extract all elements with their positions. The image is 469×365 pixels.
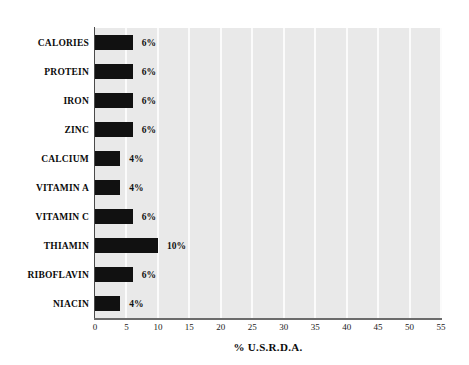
category-label: VITAMIN C <box>0 212 89 222</box>
x-tick-label: 5 <box>111 321 141 333</box>
gridline <box>409 28 411 318</box>
bar-value-label: 6% <box>142 96 156 106</box>
x-tick-label: 30 <box>269 321 299 333</box>
bar-value-label: 4% <box>129 183 143 193</box>
bar <box>95 93 133 108</box>
category-label: VITAMIN A <box>0 183 89 193</box>
y-axis-spine <box>94 27 95 319</box>
gridline <box>251 28 253 318</box>
x-tick-label: 55 <box>426 321 456 333</box>
x-tick-label: 40 <box>332 321 362 333</box>
bar <box>95 64 133 79</box>
x-tick-label: 20 <box>206 321 236 333</box>
category-label: ZINC <box>0 125 89 135</box>
bar-value-label: 10% <box>167 241 186 251</box>
bar <box>95 267 133 282</box>
category-label: CALCIUM <box>0 154 89 164</box>
bar-value-label: 6% <box>142 270 156 280</box>
bar-value-label: 4% <box>129 154 143 164</box>
gridline <box>220 28 222 318</box>
gridline <box>314 28 316 318</box>
category-axis: CALORIESPROTEINIRONZINCCALCIUMVITAMIN AV… <box>0 28 92 318</box>
gridline <box>188 28 190 318</box>
category-label: CALORIES <box>0 38 89 48</box>
bar-value-label: 4% <box>129 299 143 309</box>
x-axis-spine <box>94 318 442 320</box>
bar <box>95 209 133 224</box>
gridline <box>346 28 348 318</box>
bar-value-label: 6% <box>142 125 156 135</box>
x-axis-title: % U.S.R.D.A. <box>95 341 441 353</box>
bar <box>95 151 120 166</box>
bar-chart: CALORIESPROTEINIRONZINCCALCIUMVITAMIN AV… <box>0 0 469 365</box>
gridline <box>377 28 379 318</box>
bar <box>95 35 133 50</box>
category-label: THIAMIN <box>0 241 89 251</box>
x-tick-label: 50 <box>395 321 425 333</box>
bar-value-label: 6% <box>142 212 156 222</box>
gridline <box>283 28 285 318</box>
x-tick-label: 35 <box>300 321 330 333</box>
category-label: IRON <box>0 96 89 106</box>
category-label: PROTEIN <box>0 67 89 77</box>
bar-value-label: 6% <box>142 38 156 48</box>
x-tick-label: 10 <box>143 321 173 333</box>
x-tick-label: 25 <box>237 321 267 333</box>
category-label: RIBOFLAVIN <box>0 270 89 280</box>
x-tick-label: 0 <box>80 321 110 333</box>
bar <box>95 238 158 253</box>
bar-value-label: 6% <box>142 67 156 77</box>
x-tick-label: 45 <box>363 321 393 333</box>
x-axis-tick-labels: 0510152025303540455055 <box>0 321 469 337</box>
category-label: NIACIN <box>0 299 89 309</box>
x-tick-label: 15 <box>174 321 204 333</box>
bar <box>95 296 120 311</box>
bar <box>95 122 133 137</box>
plot-area: 6%6%6%6%4%4%6%10%6%4% <box>95 28 441 318</box>
bar <box>95 180 120 195</box>
gridline <box>157 28 159 318</box>
gridline <box>440 28 442 318</box>
